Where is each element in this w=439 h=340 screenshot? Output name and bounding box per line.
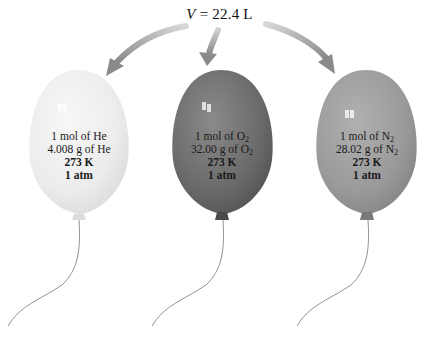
balloon-n2-label: 1 mol of N2 28.02 g of N2 273 K 1 atm	[307, 130, 427, 182]
string-icon	[152, 220, 224, 326]
pressure-text: 1 atm	[19, 169, 139, 182]
balloon-o2-label: 1 mol of O2 32.00 g of O2 273 K 1 atm	[162, 130, 282, 182]
string-icon	[297, 220, 369, 326]
moles-text: 1 mol of He	[19, 130, 139, 143]
temperature-text: 273 K	[19, 156, 139, 169]
mass-text: 32.00 g of O2	[162, 143, 282, 156]
mass-text: 28.02 g of N2	[307, 143, 427, 156]
mass-text: 4.008 g of He	[19, 143, 139, 156]
temperature-text: 273 K	[162, 156, 282, 169]
balloon-n2	[297, 70, 417, 326]
moles-text: 1 mol of O2	[162, 130, 282, 143]
string-icon	[8, 220, 80, 326]
arrow-center-icon	[199, 30, 218, 66]
arrow-left-icon	[106, 26, 186, 76]
balloon-o2	[152, 70, 273, 326]
pressure-text: 1 atm	[162, 169, 282, 182]
balloon-he	[8, 70, 129, 326]
moles-text: 1 mol of N2	[307, 130, 427, 143]
arrow-right-icon	[266, 24, 335, 74]
pressure-text: 1 atm	[307, 169, 427, 182]
balloon-he-label: 1 mol of He 4.008 g of He 273 K 1 atm	[19, 130, 139, 182]
temperature-text: 273 K	[307, 156, 427, 169]
